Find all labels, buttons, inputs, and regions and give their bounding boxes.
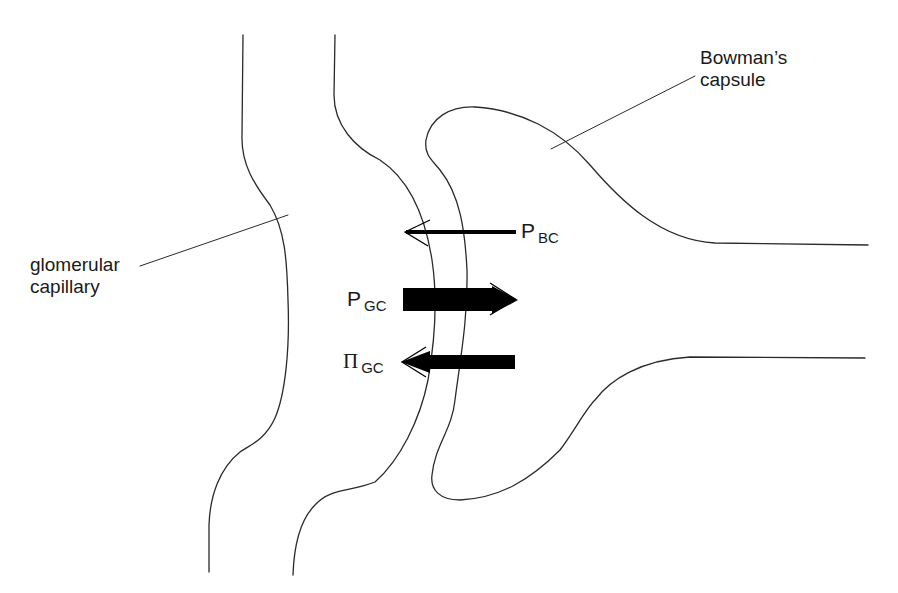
pgc-subscript: GC bbox=[364, 297, 387, 314]
pbc-symbol: P bbox=[521, 219, 535, 242]
pigc-label: ΠGC bbox=[343, 350, 384, 374]
pigc-subscript: GC bbox=[361, 359, 384, 376]
bowmans-capsule-label: Bowman’s capsule bbox=[700, 47, 787, 91]
glomerular-capillary-label-line2: capillary bbox=[30, 276, 120, 298]
glomerular-capillary-leader bbox=[140, 215, 288, 266]
pbc-force-arrow bbox=[405, 220, 516, 246]
pgc-force-arrow bbox=[403, 283, 518, 315]
bowmans-capsule-leader bbox=[551, 76, 695, 149]
capillary-wall-left bbox=[209, 35, 288, 572]
glomerular-capillary-label-line1: glomerular bbox=[30, 254, 120, 276]
pbc-label: PBC bbox=[521, 220, 559, 244]
bowmans-capsule-label-line1: Bowman’s bbox=[700, 47, 787, 69]
pbc-subscript: BC bbox=[538, 229, 559, 246]
pgc-label: PGC bbox=[347, 288, 387, 312]
bowmans-capsule-label-line2: capsule bbox=[700, 69, 787, 91]
pgc-symbol: P bbox=[347, 287, 361, 310]
pigc-symbol: Π bbox=[343, 349, 358, 373]
glomerular-capillary-label: glomerular capillary bbox=[30, 254, 120, 298]
pigc-force-arrow bbox=[401, 347, 515, 377]
